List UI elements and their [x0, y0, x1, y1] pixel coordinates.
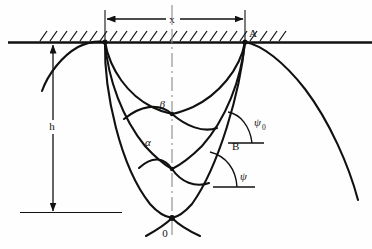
- psi-zero-label: ψ: [254, 116, 261, 128]
- node-left-cusp: [102, 39, 107, 44]
- beta-label: β: [159, 98, 166, 110]
- span-dimension-group: x: [105, 10, 245, 44]
- curve-right-outer-tail: [245, 42, 358, 200]
- figure-container: x h: [0, 0, 372, 249]
- node-alpha-intersection: [170, 167, 174, 171]
- curve-transverse-upper: [124, 107, 217, 130]
- alpha-label: α: [145, 136, 151, 148]
- angle-psi-zero-group: ψ 0: [228, 112, 266, 143]
- point-a-label: A: [249, 27, 257, 39]
- psi-arc: [210, 152, 237, 187]
- node-beta-intersection: [170, 112, 174, 116]
- span-label: x: [169, 13, 175, 25]
- curve-bottom-right-tail: [172, 218, 200, 236]
- diagram-canvas: x h: [0, 0, 372, 249]
- ground-line-group: [8, 31, 372, 43]
- curve-transverse-lower: [139, 159, 209, 184]
- psi-zero-subscript: 0: [262, 123, 266, 132]
- origin-label: 0: [162, 227, 168, 239]
- node-origin: [169, 215, 175, 221]
- psi-label: ψ: [240, 170, 247, 182]
- depth-label: h: [49, 120, 55, 132]
- point-b-label: B: [232, 140, 239, 152]
- node-right-cusp: [242, 39, 247, 44]
- cycloid-curve-family: [42, 42, 358, 236]
- curve-left-outer-tail: [42, 42, 105, 91]
- curve-bottom-left-tail: [146, 218, 172, 236]
- psi-zero-arc: [228, 112, 252, 143]
